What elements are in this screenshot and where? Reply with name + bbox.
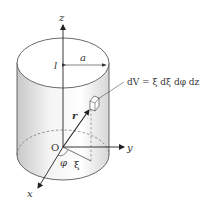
height-label: l (54, 60, 57, 71)
position-vector-label: r (72, 110, 78, 121)
cylinder-diagram: z a l y ξ φ x O r dV = ξ dξ dφ dz (0, 0, 216, 209)
x-axis-label: x (27, 188, 33, 199)
phi-label: φ (60, 157, 67, 168)
xi-label: ξ (74, 159, 80, 170)
volume-element-formula: dV = ξ dξ dφ dz (127, 77, 200, 87)
radius-label: a (80, 52, 86, 63)
origin-label: O (51, 142, 59, 153)
z-axis-label: z (58, 12, 65, 23)
y-axis-label: y (126, 142, 133, 153)
